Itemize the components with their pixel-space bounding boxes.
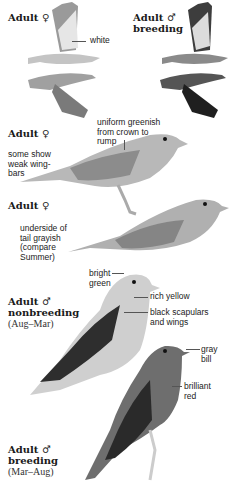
heading-line-1: Adult ♂ (133, 12, 176, 23)
heading-adult-female-flight: Adult ♀ (8, 12, 49, 23)
heading-line-1: Adult ♂ (8, 296, 51, 307)
annotation-weak-wingbars: some show weak wing- bars (8, 150, 51, 179)
text-line: bill (201, 354, 211, 364)
annotation-bright-green: bright green (89, 269, 111, 288)
text-line: and wings (150, 317, 188, 327)
text-line: Summer) (20, 252, 55, 262)
heading-adult-male-breeding-flight: Adult ♂ breeding (133, 12, 183, 34)
text-line: tail grayish (20, 233, 61, 243)
season-range: (Aug–Mar) (8, 318, 79, 329)
annotation-brilliant-red: brilliant red (184, 382, 211, 401)
leader-brilliant-red (172, 386, 182, 387)
text-line: bars (8, 168, 25, 178)
season-range: (Mar–Aug) (8, 466, 58, 477)
heading-adult-male-breeding: Adult ♂ breeding (Mar–Aug) (8, 444, 58, 477)
flight-male-lower-icon (160, 73, 226, 118)
annotation-uniform-greenish: uniform greenish from crown to rump (97, 118, 160, 147)
annotation-rich-yellow: rich yellow (150, 292, 190, 302)
leader-uniform (124, 140, 125, 150)
text-line: rump (97, 136, 116, 146)
text-line: green (89, 278, 111, 288)
text-line: (compare (20, 242, 56, 252)
heading-adult-female-2: Adult ♀ (8, 200, 49, 211)
annotation-gray-bill: gray bill (201, 345, 218, 364)
annotation-white: white (90, 36, 110, 46)
heading-line-2: breeding (133, 23, 183, 34)
text-line: gray (201, 344, 218, 354)
text-line: from crown to (97, 127, 149, 137)
text-line: underside of (20, 223, 67, 233)
heading-adult-male-nonbreeding: Adult ♂ nonbreeding (Aug–Mar) (8, 296, 79, 329)
text-line: black scapulars (150, 307, 209, 317)
text-line: some show (8, 149, 51, 159)
leader-white (72, 41, 86, 42)
leader-gray-bill (186, 349, 200, 350)
text-line: brilliant (184, 381, 211, 391)
heading-line-2: nonbreeding (8, 307, 79, 318)
text-line: red (184, 391, 196, 401)
heading-line-1: Adult ♂ (8, 444, 51, 455)
female-perched-2-icon (68, 200, 229, 252)
leader-rich-yellow (134, 297, 148, 298)
leader-bright-green (112, 273, 124, 274)
annotation-black-scapulars: black scapulars and wings (150, 308, 209, 327)
heading-line-2: breeding (8, 455, 58, 466)
annotation-underside-tail: underside of tail grayish (compare Summe… (20, 224, 67, 262)
leader-black-scapulars (124, 312, 148, 313)
heading-adult-female-1: Adult ♀ (8, 128, 49, 139)
flight-female-lower-icon (28, 73, 96, 118)
text-line: weak wing- (8, 159, 51, 169)
text-line: bright (89, 268, 110, 278)
text-line: uniform greenish (97, 117, 160, 127)
